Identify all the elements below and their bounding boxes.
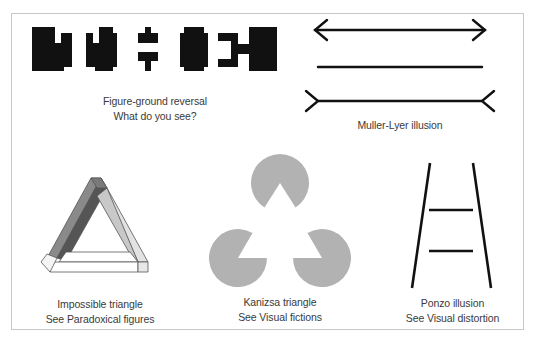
muller-lyer-figure xyxy=(306,20,494,111)
impossible-triangle-figure xyxy=(41,178,148,272)
impossible-triangle-title: Impossible triangle xyxy=(35,297,165,312)
kanizsa-figure xyxy=(209,154,351,287)
impossible-triangle-subtitle: See Paradoxical figures xyxy=(35,312,165,327)
ponzo-figure xyxy=(412,163,491,288)
muller-lyer-caption: Muller-Lyer illusion xyxy=(340,118,460,133)
figure-ground-figure xyxy=(32,27,277,71)
muller-lyer-title: Muller-Lyer illusion xyxy=(340,118,460,133)
kanizsa-title: Kanizsa triangle xyxy=(220,295,340,310)
ponzo-title: Ponzo illusion xyxy=(390,296,515,311)
kanizsa-caption: Kanizsa triangle See Visual fictions xyxy=(220,295,340,325)
figure-ground-title: Figure-ground reversal xyxy=(90,94,220,109)
kanizsa-subtitle: See Visual fictions xyxy=(220,310,340,325)
figure-ground-caption: Figure-ground reversal What do you see? xyxy=(90,94,220,124)
ponzo-subtitle: See Visual distortion xyxy=(390,311,515,326)
figure-ground-subtitle: What do you see? xyxy=(90,109,220,124)
illusions-artwork xyxy=(0,0,540,342)
ponzo-caption: Ponzo illusion See Visual distortion xyxy=(390,296,515,326)
impossible-triangle-caption: Impossible triangle See Paradoxical figu… xyxy=(35,297,165,327)
